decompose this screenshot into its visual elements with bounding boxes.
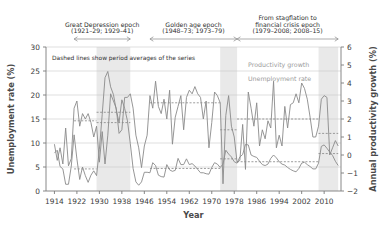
y-tick-label-right: 0 xyxy=(347,151,352,160)
x-tick-label: 1962 xyxy=(180,197,199,206)
series-label-unemployment: Unemployment rate xyxy=(248,75,311,83)
x-tick-label: 1914 xyxy=(45,197,64,206)
x-tick-label: 1978 xyxy=(225,197,244,206)
y-tick-label-left: 20 xyxy=(31,91,41,100)
y-tick-label-left: 25 xyxy=(31,67,41,76)
x-tick-label: 1922 xyxy=(67,197,86,206)
y-tick-label-left: 15 xyxy=(31,115,41,124)
x-tick-label: 1938 xyxy=(112,197,131,206)
x-tick-label: 1946 xyxy=(135,197,154,206)
y-tick-label-right: −1 xyxy=(347,169,358,178)
chart-figure: 051015202530−2−1012345619141922193019381… xyxy=(0,0,388,239)
x-axis-label: Year xyxy=(182,210,204,220)
y-tick-label-right: −2 xyxy=(347,187,358,196)
x-tick-label: 2010 xyxy=(315,197,334,206)
y-tick-label-left: 0 xyxy=(35,187,40,196)
x-tick-label: 1994 xyxy=(270,197,289,206)
y-tick-label-left: 30 xyxy=(31,43,41,52)
chart-annotation: Dashed lines show period averages of the… xyxy=(52,55,195,62)
epoch-periods: (1979–2008; 2008–15) xyxy=(253,27,323,34)
y-tick-label-right: 5 xyxy=(347,61,352,70)
chart-svg: 051015202530−2−1012345619141922193019381… xyxy=(0,0,388,239)
y-axis-label-right: Annual productivity growth (%) xyxy=(368,46,378,192)
y-axis-label-left: Unemployment rate (%) xyxy=(6,64,16,175)
epoch-periods: (1948–73; 1973–79) xyxy=(162,27,224,34)
y-tick-label-left: 5 xyxy=(35,163,40,172)
x-tick-label: 2002 xyxy=(292,197,311,206)
y-tick-label-right: 1 xyxy=(347,133,352,142)
y-tick-label-left: 10 xyxy=(31,139,41,148)
series-label-productivity: Productivity growth xyxy=(248,61,309,69)
x-tick-label: 1930 xyxy=(90,197,109,206)
y-tick-label-right: 3 xyxy=(347,97,352,106)
epoch-periods: (1921–29; 1929–41) xyxy=(71,27,133,34)
y-tick-label-right: 4 xyxy=(347,79,352,88)
x-tick-label: 1954 xyxy=(157,197,176,206)
x-tick-label: 1970 xyxy=(202,197,221,206)
x-tick-label: 1986 xyxy=(247,197,266,206)
y-tick-label-right: 6 xyxy=(347,43,352,52)
y-tick-label-right: 2 xyxy=(347,115,352,124)
